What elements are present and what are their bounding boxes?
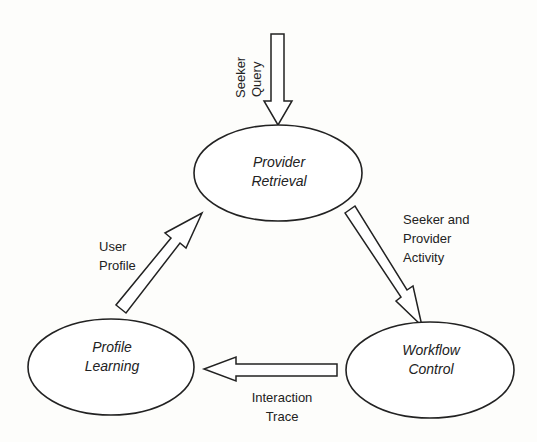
svg-text:Profile: Profile — [99, 258, 136, 273]
svg-text:Provider: Provider — [253, 154, 306, 170]
node-provider-retrieval: Provider Retrieval — [194, 125, 362, 221]
svg-text:Profile: Profile — [92, 339, 132, 355]
seeker-query-arrow — [264, 34, 292, 125]
svg-text:Workflow: Workflow — [402, 342, 460, 358]
svg-text:Query: Query — [249, 61, 264, 97]
svg-text:Learning: Learning — [85, 358, 140, 374]
interaction-trace-arrow — [204, 357, 337, 381]
seeker-provider-activity-label: Seeker and Provider Activity — [403, 212, 470, 265]
node-workflow-control: Workflow Control — [346, 322, 514, 418]
node-profile-learning: Profile Learning — [28, 319, 194, 415]
svg-text:Seeker and: Seeker and — [403, 212, 470, 227]
svg-text:User: User — [99, 239, 127, 254]
diagram-canvas: Seeker Query Provider Retrieval Seeker a… — [0, 0, 537, 442]
svg-text:Trace: Trace — [266, 409, 299, 424]
interaction-trace-label: Interaction Trace — [252, 390, 313, 424]
seeker-query-label: Seeker Query — [233, 56, 264, 98]
svg-text:Seeker: Seeker — [233, 56, 248, 98]
svg-text:Retrieval: Retrieval — [251, 173, 307, 189]
user-profile-label: User Profile — [99, 239, 136, 273]
svg-text:Interaction: Interaction — [252, 390, 313, 405]
svg-text:Control: Control — [408, 361, 454, 377]
svg-text:Activity: Activity — [403, 250, 445, 265]
svg-text:Provider: Provider — [403, 231, 452, 246]
